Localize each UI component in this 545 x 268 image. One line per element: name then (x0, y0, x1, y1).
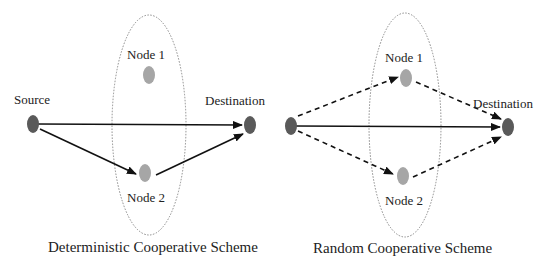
deterministic-scheme-diagram: Source Destination Node 1 Node 2 Determi… (14, 15, 265, 255)
node2-label: Node 2 (385, 193, 423, 208)
destination-node (502, 118, 514, 136)
random-scheme-diagram: Destination Node 1 Node 2 Random Coopera… (285, 13, 533, 256)
source-node (27, 115, 39, 133)
link-node2-destination (156, 134, 243, 175)
destination-node (244, 116, 256, 134)
random-caption: Random Cooperative Scheme (313, 240, 492, 256)
link-source-destination (296, 126, 500, 127)
source-label: Source (14, 92, 50, 107)
destination-label: Destination (205, 93, 265, 108)
link-source-node1 (298, 77, 398, 116)
node1-label: Node 1 (385, 50, 423, 65)
node1 (400, 69, 412, 87)
link-source-destination (38, 124, 242, 125)
destination-label: Destination (473, 96, 533, 111)
figure-canvas: Source Destination Node 1 Node 2 Determi… (0, 0, 545, 268)
node2 (397, 167, 409, 185)
node2-label: Node 2 (127, 190, 165, 205)
link-source-node2 (40, 129, 136, 174)
node1-label: Node 1 (127, 47, 165, 62)
cooperative-schemes-figure: Source Destination Node 1 Node 2 Determi… (0, 0, 545, 268)
link-source-node2 (298, 131, 393, 174)
node1 (143, 66, 155, 84)
link-node2-destination (413, 137, 501, 177)
deterministic-caption: Deterministic Cooperative Scheme (48, 239, 258, 255)
node2 (139, 164, 151, 182)
source-node (285, 117, 297, 135)
